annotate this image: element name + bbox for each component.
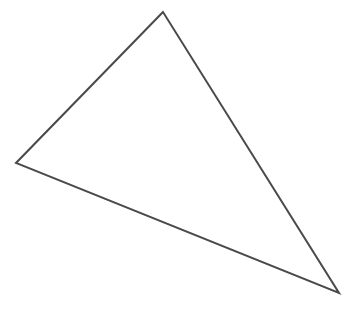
diagram-canvas [0, 0, 344, 309]
triangle-shape [16, 12, 339, 293]
